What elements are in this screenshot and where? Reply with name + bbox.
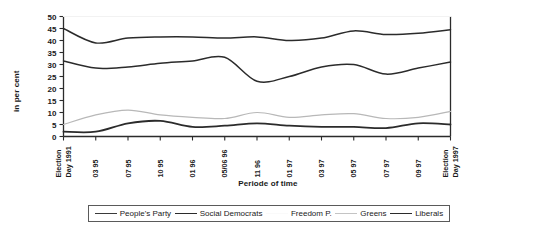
x-tick-label: Election bbox=[54, 150, 63, 178]
y-tick-label: 35 bbox=[48, 49, 57, 58]
x-tick-label: 09 97 bbox=[414, 160, 423, 178]
x-tick-label: 07 97 bbox=[382, 160, 391, 178]
x-tick-labels: ElectionDay 199103 9507 9510 9501 9605/0… bbox=[54, 146, 460, 177]
legend-label: Greens bbox=[360, 209, 386, 218]
y-tick-label: 30 bbox=[48, 61, 57, 70]
x-tick-label: Day 1997 bbox=[451, 146, 460, 177]
legend-item[interactable]: Liberals bbox=[390, 209, 443, 218]
y-tick-label: 5 bbox=[52, 121, 57, 130]
legend-item[interactable]: Social Democrats bbox=[175, 209, 263, 218]
series-line bbox=[64, 121, 451, 133]
x-tick-label: 07 95 bbox=[124, 160, 133, 178]
legend-label: People's Party bbox=[120, 209, 171, 218]
legend-label: Social Democrats bbox=[200, 209, 263, 218]
legend-label: Liberals bbox=[415, 209, 443, 218]
y-tick-label: 20 bbox=[48, 85, 57, 94]
series-line bbox=[64, 29, 451, 44]
legend-swatch bbox=[390, 213, 412, 214]
legend-item[interactable]: Greens bbox=[335, 209, 386, 218]
data-series-group bbox=[64, 17, 451, 133]
chart-legend: People's PartySocial DemocratsFreedom P.… bbox=[88, 205, 450, 222]
legend-swatch bbox=[95, 213, 117, 214]
x-tick-label: Day 1991 bbox=[64, 146, 73, 177]
series-line bbox=[64, 56, 451, 82]
x-tick-label: 03 95 bbox=[91, 160, 100, 178]
plot-area: 05101520253035404550ElectionDay 199103 9… bbox=[0, 0, 536, 233]
x-tick-label: 05 97 bbox=[349, 160, 358, 178]
y-tick-label: 40 bbox=[48, 37, 57, 46]
y-tick-label: 50 bbox=[48, 13, 57, 22]
y-tick-label: 45 bbox=[48, 25, 57, 34]
x-tick-label: Election bbox=[441, 150, 450, 178]
legend-swatch bbox=[335, 213, 357, 214]
y-axis: 05101520253035404550 bbox=[48, 13, 64, 142]
y-tick-label: 0 bbox=[52, 133, 57, 142]
x-tick-label: 05/06 96 bbox=[220, 150, 229, 178]
legend-label: Freedom P. bbox=[291, 209, 332, 218]
x-tick-label: 03 97 bbox=[317, 160, 326, 178]
line-chart: in per cent 05101520253035404550Election… bbox=[0, 0, 536, 233]
x-tick-label: 01 96 bbox=[188, 160, 197, 178]
legend-item[interactable]: Freedom P. bbox=[266, 209, 332, 218]
x-axis-title: Periode of time bbox=[0, 179, 536, 188]
y-tick-label: 15 bbox=[48, 97, 57, 106]
x-tick-label: 11 96 bbox=[253, 160, 262, 178]
x-tick-label: 01 97 bbox=[285, 160, 294, 178]
legend-item[interactable]: People's Party bbox=[95, 209, 171, 218]
legend-swatch bbox=[175, 213, 197, 214]
x-tick-label: 10 95 bbox=[156, 160, 165, 178]
y-tick-label: 10 bbox=[48, 109, 57, 118]
legend-swatch bbox=[266, 213, 288, 214]
series-line bbox=[64, 110, 451, 124]
y-tick-label: 25 bbox=[48, 73, 57, 82]
